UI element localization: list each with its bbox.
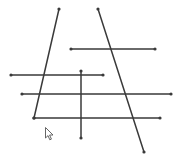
line-segments-canvas[interactable]: [0, 0, 181, 158]
segment-2-start-endpoint[interactable]: [96, 7, 99, 10]
segment-3-start-endpoint[interactable]: [69, 47, 72, 50]
arrow-pointer-icon: [45, 127, 55, 141]
line-segment-2[interactable]: [98, 9, 144, 152]
segment-4-end-endpoint[interactable]: [101, 73, 104, 76]
segment-6-end-endpoint[interactable]: [158, 116, 161, 119]
segment-2-end-endpoint[interactable]: [142, 150, 145, 153]
segment-4-start-endpoint[interactable]: [9, 73, 12, 76]
segment-7-end-endpoint[interactable]: [79, 136, 82, 139]
segment-1-start-endpoint[interactable]: [57, 7, 60, 10]
segment-5-end-endpoint[interactable]: [169, 92, 172, 95]
line-segment-1[interactable]: [34, 9, 59, 118]
segments-layer: [11, 9, 171, 152]
endpoints-layer: [9, 7, 172, 153]
segment-3-end-endpoint[interactable]: [153, 47, 156, 50]
segment-6-start-endpoint[interactable]: [32, 116, 35, 119]
segment-5-start-endpoint[interactable]: [20, 92, 23, 95]
segment-7-start-endpoint[interactable]: [79, 69, 82, 72]
